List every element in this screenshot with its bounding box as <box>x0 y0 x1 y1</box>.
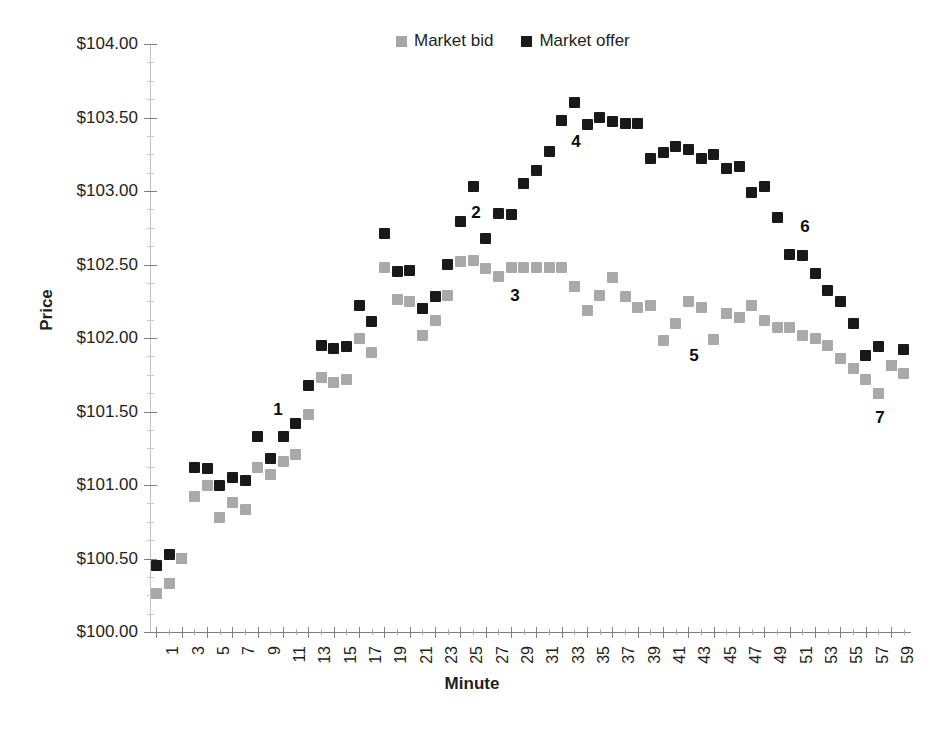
data-point-bid <box>202 480 213 491</box>
x-axis-tick-label: 45 <box>722 646 740 664</box>
x-axis-tick-label: 1 <box>164 646 182 655</box>
annotation-label-4: 4 <box>571 132 580 152</box>
y-axis-tick-labels: $100.00$100.50$101.00$101.50$102.00$102.… <box>34 0 138 732</box>
x-axis-tick-label: 3 <box>190 646 208 655</box>
data-point-bid <box>354 333 365 344</box>
x-axis-tick-label: 17 <box>367 646 385 664</box>
data-point-offer <box>354 300 365 311</box>
data-point-bid <box>468 255 479 266</box>
data-point-offer <box>848 318 859 329</box>
data-point-offer <box>164 549 175 560</box>
x-axis-tick-label: 41 <box>671 646 689 664</box>
data-point-bid <box>860 374 871 385</box>
data-point-offer <box>468 181 479 192</box>
data-point-offer <box>873 341 884 352</box>
data-point-bid <box>176 553 187 564</box>
annotation-label-5: 5 <box>689 346 698 366</box>
data-point-bid <box>772 322 783 333</box>
data-point-offer <box>506 209 517 220</box>
data-point-offer <box>746 187 757 198</box>
data-point-offer <box>734 161 745 172</box>
data-point-offer <box>810 268 821 279</box>
data-point-bid <box>670 318 681 329</box>
x-axis-tick-label: 31 <box>544 646 562 664</box>
x-axis-tick-label: 49 <box>772 646 790 664</box>
data-point-offer <box>455 216 466 227</box>
data-point-bid <box>265 469 276 480</box>
data-point-offer <box>316 340 327 351</box>
data-point-offer <box>189 462 200 473</box>
data-point-offer <box>569 97 580 108</box>
data-point-offer <box>151 560 162 571</box>
data-point-bid <box>366 347 377 358</box>
data-point-bid <box>898 368 909 379</box>
data-point-bid <box>620 291 631 302</box>
y-axis-tick-label: $100.50 <box>42 549 138 569</box>
data-point-offer <box>366 316 377 327</box>
data-point-offer <box>797 250 808 261</box>
data-point-offer <box>556 115 567 126</box>
plot-area <box>150 44 910 632</box>
data-point-bid <box>252 462 263 473</box>
x-axis-tick-label: 5 <box>215 646 233 655</box>
data-point-offer <box>303 380 314 391</box>
data-point-offer <box>252 431 263 442</box>
data-point-offer <box>214 480 225 491</box>
data-point-bid <box>392 294 403 305</box>
data-point-offer <box>442 259 453 270</box>
x-axis-tick-label: 33 <box>570 646 588 664</box>
data-point-offer <box>531 165 542 176</box>
data-point-offer <box>430 291 441 302</box>
x-axis-tick-label: 15 <box>342 646 360 664</box>
data-point-offer <box>658 147 669 158</box>
annotation-label-2: 2 <box>471 203 480 223</box>
data-point-bid <box>379 262 390 273</box>
data-point-bid <box>784 322 795 333</box>
data-point-offer <box>772 212 783 223</box>
data-point-bid <box>341 374 352 385</box>
data-point-bid <box>822 340 833 351</box>
data-point-bid <box>227 497 238 508</box>
data-point-bid <box>721 308 732 319</box>
data-point-offer <box>620 118 631 129</box>
data-point-bid <box>848 363 859 374</box>
data-point-bid <box>328 377 339 388</box>
data-point-bid <box>607 272 618 283</box>
annotation-label-7: 7 <box>875 408 884 428</box>
data-point-offer <box>265 453 276 464</box>
x-axis-tick-label: 47 <box>747 646 765 664</box>
x-axis-tick-label: 21 <box>418 646 436 664</box>
data-point-bid <box>797 330 808 341</box>
x-axis-tick-label: 29 <box>519 646 537 664</box>
data-point-bid <box>493 271 504 282</box>
y-axis-tick-label: $103.00 <box>42 181 138 201</box>
y-axis-tick-label: $101.00 <box>42 475 138 495</box>
x-axis-tick-label: 13 <box>316 646 334 664</box>
data-point-bid <box>645 300 656 311</box>
data-point-bid <box>303 409 314 420</box>
data-point-bid <box>151 588 162 599</box>
data-point-offer <box>835 296 846 307</box>
y-axis-tick-label: $104.00 <box>42 34 138 54</box>
y-axis-tick-label: $100.00 <box>42 622 138 642</box>
data-point-offer <box>227 472 238 483</box>
data-point-offer <box>683 144 694 155</box>
data-point-offer <box>379 228 390 239</box>
data-point-bid <box>417 330 428 341</box>
data-point-offer <box>341 341 352 352</box>
data-point-bid <box>214 512 225 523</box>
data-point-bid <box>531 262 542 273</box>
data-point-offer <box>632 118 643 129</box>
y-axis-tick-label: $103.50 <box>42 108 138 128</box>
x-axis-tick-label: 51 <box>798 646 816 664</box>
data-point-offer <box>544 146 555 157</box>
x-axis-tick-label: 37 <box>620 646 638 664</box>
x-axis-tick-label: 27 <box>494 646 512 664</box>
data-point-offer <box>860 350 871 361</box>
y-axis-tick-label: $102.00 <box>42 328 138 348</box>
data-point-bid <box>240 504 251 515</box>
data-point-bid <box>632 302 643 313</box>
data-point-offer <box>328 343 339 354</box>
y-axis-title: Price <box>37 289 57 331</box>
data-point-offer <box>645 153 656 164</box>
